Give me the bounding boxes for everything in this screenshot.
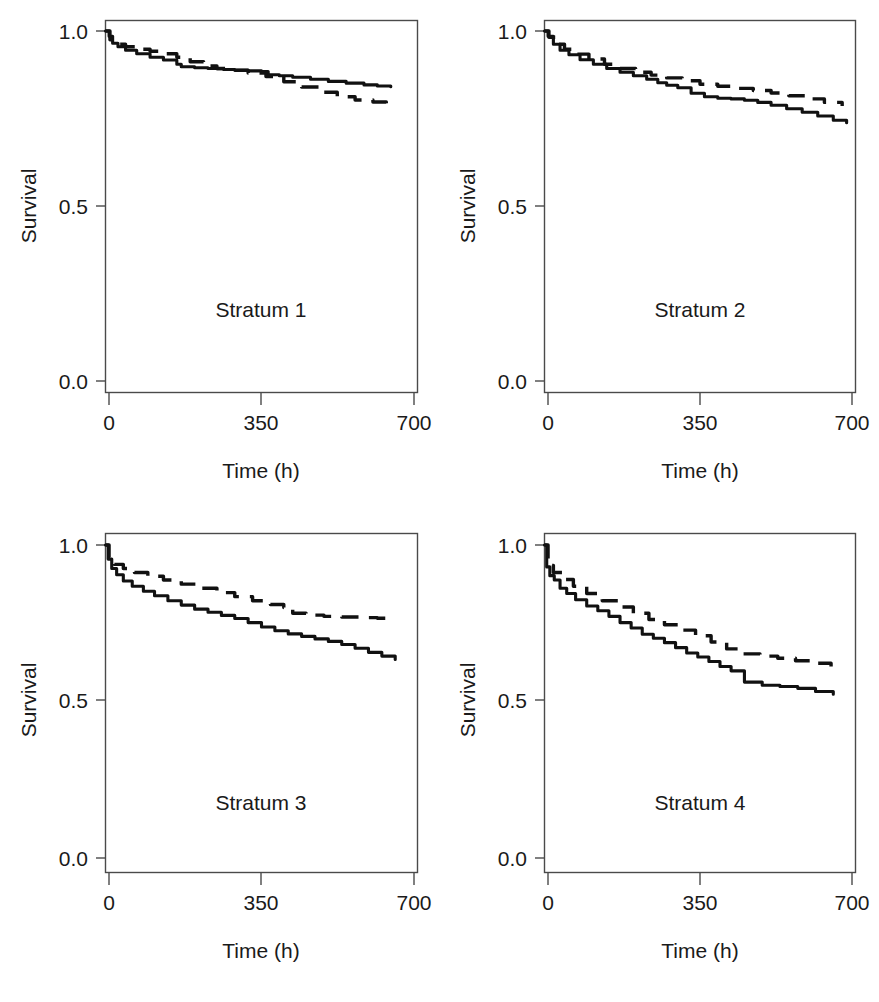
panel-4-ylabel-0.0: 0.0 [498, 847, 527, 870]
panel-4-plot: 1.0 0.5 0.0 0 350 700 Time (h) Survival … [440, 512, 879, 1002]
panel-3-ylabel-0.5: 0.5 [59, 689, 88, 712]
panel-3-curve-dashed [106, 545, 396, 619]
panel-4-y-axis-title: Survival [456, 663, 479, 738]
panel-2-curve-solid [545, 31, 847, 123]
panel-1-ylabel-0.5: 0.5 [59, 195, 88, 218]
panel-1-ylabel-1.0: 1.0 [59, 20, 88, 43]
panel-stratum-1: 1.0 0.5 0.0 0 350 700 Time (h) Survival … [0, 6, 440, 496]
panel-1-xlabel-350: 350 [243, 411, 278, 434]
panel-4-x-axis-title: Time (h) [661, 939, 738, 962]
panel-3-xlabel-700: 700 [396, 891, 431, 914]
panel-3-ylabel-1.0: 1.0 [59, 534, 88, 557]
panel-4-xlabel-700: 700 [834, 891, 869, 914]
panel-3-xlabel-0: 0 [103, 891, 115, 914]
panel-1-xlabel-700: 700 [396, 411, 431, 434]
panel-3-ylabel-0.0: 0.0 [59, 847, 88, 870]
panel-1-frame [106, 21, 418, 393]
panel-2-plot: 1.0 0.5 0.0 0 350 700 Time (h) Survival … [440, 6, 879, 496]
panel-3-stratum-label: Stratum 3 [215, 791, 306, 814]
panel-3-x-axis-title: Time (h) [222, 939, 299, 962]
panel-2-ylabel-0.5: 0.5 [498, 195, 527, 218]
panel-3-y-axis-title: Survival [17, 663, 40, 738]
panel-1-curve-solid [106, 31, 391, 87]
panel-2-ylabel-1.0: 1.0 [498, 20, 527, 43]
panel-3-curve-solid [106, 545, 396, 660]
panel-1-curve-dashed [106, 31, 387, 103]
panel-4-curve-solid [545, 545, 834, 694]
panel-1-y-axis-title: Survival [17, 169, 40, 244]
panel-2-frame [545, 21, 856, 393]
panel-4-ylabel-1.0: 1.0 [498, 534, 527, 557]
panel-3-frame [106, 534, 418, 873]
panel-4-frame [545, 534, 856, 873]
panel-3-plot: 1.0 0.5 0.0 0 350 700 Time (h) Survival … [0, 512, 440, 1002]
panel-stratum-3: 1.0 0.5 0.0 0 350 700 Time (h) Survival … [0, 512, 440, 1002]
panel-2-xlabel-0: 0 [542, 411, 554, 434]
panel-1-xlabel-0: 0 [103, 411, 115, 434]
panel-stratum-2: 1.0 0.5 0.0 0 350 700 Time (h) Survival … [440, 6, 879, 496]
panel-2-x-axis-title: Time (h) [661, 459, 738, 482]
panel-2-y-axis-title: Survival [456, 169, 479, 244]
panel-1-stratum-label: Stratum 1 [215, 298, 306, 321]
panel-1-plot: 1.0 0.5 0.0 0 350 700 Time (h) Survival … [0, 6, 440, 496]
survival-curve-figure: 1.0 0.5 0.0 0 350 700 Time (h) Survival … [0, 0, 879, 1002]
panel-stratum-4: 1.0 0.5 0.0 0 350 700 Time (h) Survival … [440, 512, 879, 1002]
panel-2-ylabel-0.0: 0.0 [498, 370, 527, 393]
panel-3-xlabel-350: 350 [243, 891, 278, 914]
panel-2-stratum-label: Stratum 2 [654, 298, 745, 321]
panel-2-xlabel-700: 700 [834, 411, 869, 434]
panel-4-ylabel-0.5: 0.5 [498, 689, 527, 712]
panel-1-x-axis-title: Time (h) [222, 459, 299, 482]
panel-1-ylabel-0.0: 0.0 [59, 370, 88, 393]
panel-4-xlabel-0: 0 [542, 891, 554, 914]
panel-4-xlabel-350: 350 [682, 891, 717, 914]
panel-2-xlabel-350: 350 [682, 411, 717, 434]
panel-4-stratum-label: Stratum 4 [654, 791, 745, 814]
